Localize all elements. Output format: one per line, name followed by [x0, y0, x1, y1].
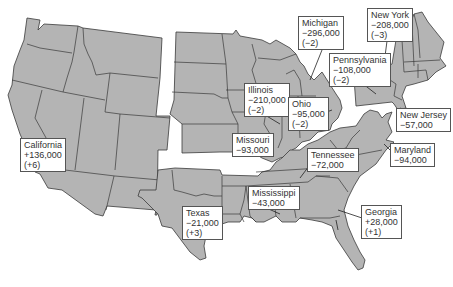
callout-state-name: Pennsylvania [333, 55, 387, 65]
callout-change-value: −43,000 [252, 198, 296, 208]
callout-seat-change: (−2) [302, 38, 340, 48]
callout-change-value: −94,000 [394, 155, 431, 165]
callout-illinois: Illinois −210,000 (−2) [244, 83, 290, 117]
callout-state-name: New Jersey [400, 110, 447, 120]
callout-seat-change: (−2) [333, 75, 387, 85]
callout-tennessee: Tennessee −72,000 [307, 148, 359, 172]
callout-state-name: Maryland [394, 145, 431, 155]
callout-new-jersey: New Jersey −57,000 [396, 108, 451, 132]
callout-seat-change: (−2) [248, 105, 286, 115]
callout-state-name: Michigan [302, 18, 340, 28]
callout-georgia: Georgia +28,000 (+1) [361, 205, 402, 239]
us-map [0, 0, 453, 287]
callout-change-value: −93,000 [236, 145, 270, 155]
callout-maryland: Maryland −94,000 [390, 143, 435, 167]
callout-seat-change: (−3) [371, 30, 409, 40]
callout-new-york: New York −208,000 (−3) [367, 8, 413, 42]
callout-mississippi: Mississippi −43,000 [248, 186, 300, 210]
callout-missouri: Missouri −93,000 [232, 133, 274, 157]
callout-ohio: Ohio −95,000 (−2) [288, 97, 329, 131]
callout-change-value: −296,000 [302, 28, 340, 38]
callout-change-value: −210,000 [248, 95, 286, 105]
callout-change-value: −21,000 [186, 218, 219, 228]
callout-change-value: −57,000 [400, 120, 447, 130]
callout-change-value: −108,000 [333, 65, 387, 75]
callout-michigan: Michigan −296,000 (−2) [298, 16, 344, 50]
callout-seat-change: (−2) [292, 119, 325, 129]
callout-state-name: New York [371, 10, 409, 20]
west-region-shape [8, 18, 170, 216]
callout-change-value: −95,000 [292, 109, 325, 119]
callout-seat-change: (+1) [365, 227, 398, 237]
callout-state-name: Tennessee [311, 150, 355, 160]
callout-change-value: −208,000 [371, 20, 409, 30]
callout-state-name: Mississippi [252, 188, 296, 198]
callout-seat-change: (+6) [24, 160, 62, 170]
callout-state-name: California [24, 140, 62, 150]
callout-pennsylvania: Pennsylvania −108,000 (−2) [329, 53, 391, 87]
callout-california: California +136,000 (+6) [20, 138, 66, 172]
callout-state-name: Ohio [292, 99, 325, 109]
region-west [8, 18, 170, 216]
callout-state-name: Illinois [248, 85, 286, 95]
callout-texas: Texas −21,000 (+3) [182, 206, 223, 240]
callout-state-name: Georgia [365, 207, 398, 217]
callout-seat-change: (+3) [186, 228, 219, 238]
callout-change-value: −72,000 [311, 160, 355, 170]
callout-state-name: Missouri [236, 135, 270, 145]
callout-state-name: Texas [186, 208, 219, 218]
callout-change-value: +136,000 [24, 150, 62, 160]
callout-change-value: +28,000 [365, 217, 398, 227]
